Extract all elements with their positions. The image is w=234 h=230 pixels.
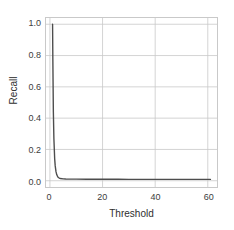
y-tick-label: 0.6 [28, 82, 41, 92]
x-tick-label: 60 [204, 192, 214, 202]
y-axis-title: Recall [8, 61, 19, 121]
x-tick-label: 40 [150, 192, 160, 202]
recall-curve [46, 18, 217, 187]
recall-threshold-chart: 0.00.20.40.60.81.0 0204060 Threshold Rec… [0, 0, 234, 230]
y-tick-label: 1.0 [28, 18, 41, 28]
series-line [53, 24, 211, 179]
x-tick-label: 0 [46, 192, 51, 202]
x-axis-title: Threshold [45, 208, 218, 219]
y-tick-label: 0.4 [28, 113, 41, 123]
y-tick-label: 0.2 [28, 145, 41, 155]
x-tick-label: 20 [97, 192, 107, 202]
y-tick-label: 0.0 [28, 177, 41, 187]
plot-area [45, 17, 218, 188]
x-axis-tick-labels: 0204060 [0, 192, 234, 206]
y-tick-label: 0.8 [28, 50, 41, 60]
